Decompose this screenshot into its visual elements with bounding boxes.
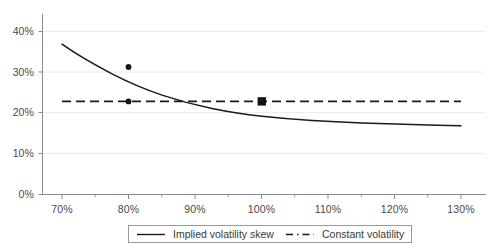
y-tick-label-30: 30%: [0, 66, 34, 78]
solid-line-swatch-icon: [136, 230, 166, 239]
y-tick-label-0: 0%: [0, 188, 34, 200]
x-tick-label-120: 120%: [373, 203, 417, 215]
series-implied-volatility-skew-line: [62, 44, 461, 126]
legend-item-implied-volatility-skew[interactable]: Implied volatility skew: [136, 226, 274, 242]
x-tick-label-90: 90%: [173, 203, 217, 215]
y-axis-ticks: [39, 32, 43, 195]
x-tick-label-130: 130%: [439, 203, 483, 215]
legend-item-constant-volatility[interactable]: Constant volatility: [285, 226, 404, 242]
dashed-line-swatch-icon: [285, 230, 315, 239]
gridlines: [43, 32, 486, 154]
volatility-skew-chart: 40% 30% 20% 10% 0% 70% 80% 90% 100% 110%…: [0, 0, 491, 249]
x-tick-label-80: 80%: [107, 203, 151, 215]
marker-constant-80: [126, 99, 132, 105]
x-tick-label-110: 110%: [306, 203, 350, 215]
marker-skew-80: [126, 64, 132, 70]
marker-intersection-100: [258, 97, 266, 105]
chart-legend: Implied volatility skew Constant volatil…: [128, 225, 412, 243]
legend-label-implied-volatility-skew: Implied volatility skew: [173, 229, 274, 240]
y-tick-label-20: 20%: [0, 106, 34, 118]
y-tick-label-10: 10%: [0, 147, 34, 159]
x-tick-label-70: 70%: [40, 203, 84, 215]
y-tick-label-40: 40%: [0, 25, 34, 37]
x-axis-major-ticks: [62, 195, 461, 200]
legend-label-constant-volatility: Constant volatility: [322, 229, 404, 240]
x-tick-label-100: 100%: [240, 203, 284, 215]
